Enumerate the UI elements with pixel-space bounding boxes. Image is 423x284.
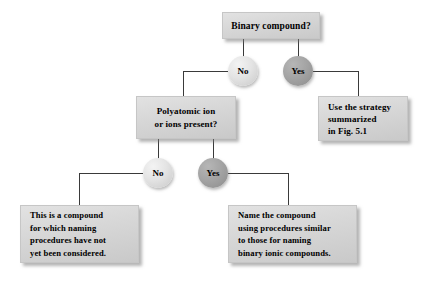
node-use-strategy-fig-line-2: summarized <box>328 113 377 125</box>
node-decision-yes-top[interactable]: Yes <box>283 56 313 86</box>
connector-yes-top-vertical <box>358 71 359 96</box>
node-name-like-binary-ionic-result-line-3: to those for naming <box>238 234 311 247</box>
connector-no-bottom-horizontal <box>79 173 143 174</box>
node-name-like-binary-ionic-result-line-1: Name the compound <box>238 209 316 222</box>
node-decision-yes-bottom-label: Yes <box>207 168 220 178</box>
connector-polyatomic-to-no <box>158 139 159 159</box>
node-not-considered-result-line-4: yet been considered. <box>30 247 106 260</box>
flowchart-diagram: Binary compound? No Yes Use the strategy… <box>0 0 423 284</box>
node-decision-no-bottom[interactable]: No <box>143 158 173 188</box>
node-not-considered-result[interactable]: This is a compound for which naming proc… <box>20 205 139 263</box>
connector-polyatomic-to-yes <box>213 139 214 159</box>
node-not-considered-result-line-1: This is a compound <box>30 209 103 222</box>
connector-binary-to-no <box>243 39 244 57</box>
connector-yes-top-horizontal <box>313 71 359 72</box>
node-name-like-binary-ionic-result[interactable]: Name the compound using procedures simil… <box>228 205 357 263</box>
node-polyatomic-ion-question-line-1: Polyatomic ion <box>157 105 216 118</box>
node-decision-yes-top-label: Yes <box>292 66 305 76</box>
connector-no-bottom-vertical <box>79 173 80 205</box>
node-decision-yes-bottom[interactable]: Yes <box>198 158 228 188</box>
node-not-considered-result-line-2: for which naming <box>30 222 96 235</box>
connector-no-top-vertical <box>183 71 184 96</box>
node-name-like-binary-ionic-result-line-2: using procedures similar <box>238 222 331 235</box>
node-polyatomic-ion-question-line-2: or ions present? <box>155 118 218 131</box>
node-decision-no-top[interactable]: No <box>228 56 258 86</box>
node-not-considered-result-line-3: procedures have not <box>30 234 106 247</box>
connector-yes-bottom-horizontal <box>228 173 289 174</box>
connector-binary-to-yes <box>298 39 299 57</box>
connector-no-top-horizontal <box>183 71 228 72</box>
connector-yes-bottom-vertical <box>288 173 289 205</box>
node-use-strategy-fig-line-1: Use the strategy <box>328 101 391 113</box>
node-decision-no-bottom-label: No <box>153 168 164 178</box>
node-name-like-binary-ionic-result-line-4: binary ionic compounds. <box>238 247 331 260</box>
node-binary-compound-question[interactable]: Binary compound? <box>222 12 320 39</box>
node-use-strategy-fig[interactable]: Use the strategy summarized in Fig. 5.1 <box>318 96 408 141</box>
node-decision-no-top-label: No <box>238 66 249 76</box>
node-binary-compound-question-line-1: Binary compound? <box>231 21 310 31</box>
node-use-strategy-fig-line-3: in Fig. 5.1 <box>328 125 367 137</box>
node-polyatomic-ion-question[interactable]: Polyatomic ion or ions present? <box>136 96 236 139</box>
